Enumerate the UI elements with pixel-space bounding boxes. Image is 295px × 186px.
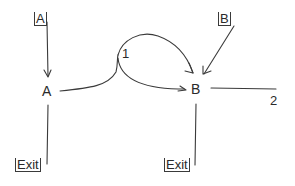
- edge-b-to-exit: [195, 104, 196, 165]
- edge-entry-b-to-b: [204, 26, 234, 74]
- edge-junction-1-loop-to-b: [118, 34, 193, 73]
- node-a: A: [42, 84, 51, 98]
- entry-label-b: B: [218, 12, 231, 26]
- junction-label-1: 1: [122, 47, 129, 60]
- edge-a-to-junction-1: [60, 55, 118, 91]
- exit-label-a: Exit: [15, 158, 41, 172]
- exit-label-b: Exit: [164, 158, 190, 172]
- edge-entry-a-to-a: [47, 22, 48, 76]
- node-b: B: [191, 82, 200, 96]
- entry-label-a: A: [34, 12, 47, 26]
- junction-label-2: 2: [270, 94, 277, 107]
- edge-a-to-exit: [47, 105, 48, 164]
- edge-junction-1-lower-to-b: [118, 58, 184, 89]
- edge-b-to-junction-2: [211, 88, 276, 89]
